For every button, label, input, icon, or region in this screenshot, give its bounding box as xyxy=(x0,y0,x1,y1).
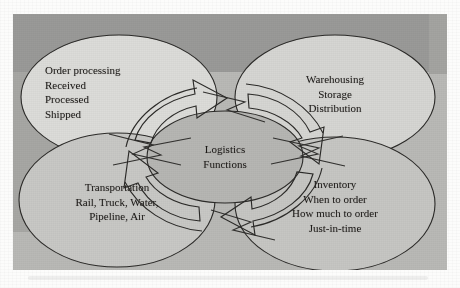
label-line: Logistics xyxy=(165,142,285,157)
label-line: When to order xyxy=(255,192,415,207)
label-line: Order processing xyxy=(45,63,195,78)
label-line: Storage xyxy=(255,87,415,102)
label-line: Functions xyxy=(165,157,285,172)
label-line: Rail, Truck, Water, xyxy=(37,195,197,210)
label-line: Just-in-time xyxy=(255,221,415,236)
diagram-frame: Order processing Received Processed Ship… xyxy=(13,14,447,270)
label-line: Inventory xyxy=(255,177,415,192)
label-warehousing: Warehousing Storage Distribution xyxy=(255,72,415,116)
label-line: Received xyxy=(45,78,195,93)
label-line: Transportation xyxy=(37,180,197,195)
label-transportation: Transportation Rail, Truck, Water, Pipel… xyxy=(37,180,197,224)
background-band-right xyxy=(429,14,447,74)
label-line: Distribution xyxy=(255,101,415,116)
figure-canvas: Order processing Received Processed Ship… xyxy=(0,0,460,288)
page-ghost-text xyxy=(28,276,428,280)
label-line: Pipeline, Air xyxy=(37,209,197,224)
label-logistics-functions: Logistics Functions xyxy=(165,142,285,171)
label-line: Processed xyxy=(45,92,195,107)
label-line: Shipped xyxy=(45,107,195,122)
label-line: Warehousing xyxy=(255,72,415,87)
label-order-processing: Order processing Received Processed Ship… xyxy=(45,63,195,121)
label-line: How much to order xyxy=(255,206,415,221)
label-inventory: Inventory When to order How much to orde… xyxy=(255,177,415,235)
